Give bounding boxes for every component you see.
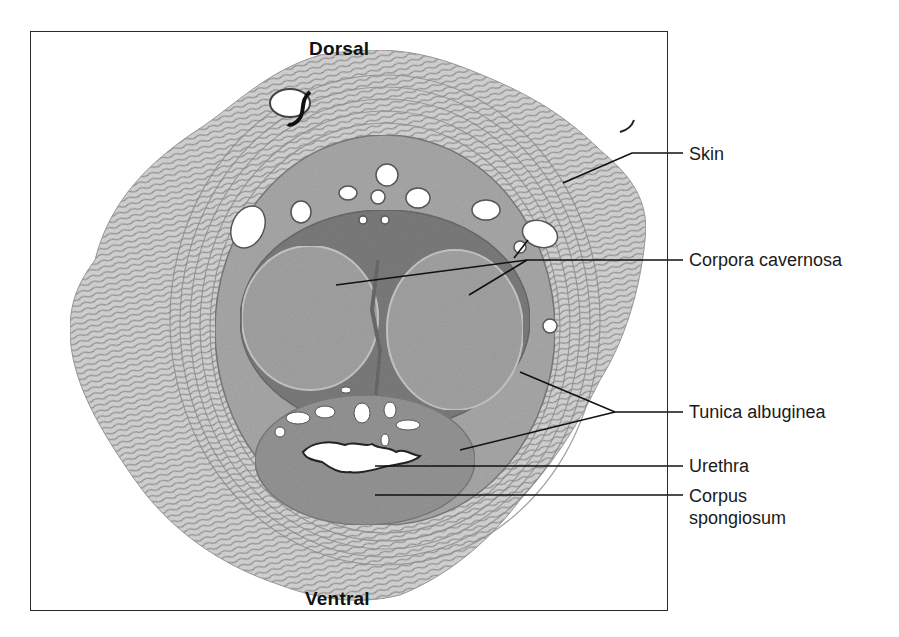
label-corpora-cavernosa: Corpora cavernosa: [689, 249, 842, 271]
dorsal-label: Dorsal: [309, 38, 369, 60]
label-tunica-albuginea: Tunica albuginea: [689, 401, 825, 423]
label-skin: Skin: [689, 143, 724, 165]
label-corpus-spongiosum: Corpus spongiosum: [689, 485, 809, 529]
label-urethra: Urethra: [689, 455, 749, 477]
micrograph-frame: [30, 31, 668, 611]
histology-figure: Dorsal Ventral Skin Corpora cavernosa Tu…: [0, 0, 899, 637]
ventral-label: Ventral: [305, 588, 370, 610]
